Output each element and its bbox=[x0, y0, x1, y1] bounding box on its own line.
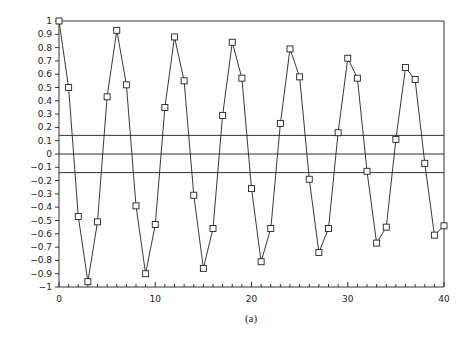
data-point-marker bbox=[422, 160, 428, 166]
data-point-marker bbox=[335, 130, 341, 136]
data-point-marker bbox=[200, 265, 206, 271]
data-point-marker bbox=[66, 85, 72, 91]
data-point-marker bbox=[326, 225, 332, 231]
data-point-marker bbox=[258, 259, 264, 265]
data-point-marker bbox=[162, 104, 168, 110]
y-tick-label: 0.3 bbox=[38, 109, 52, 119]
data-point-marker bbox=[383, 224, 389, 230]
data-point-marker bbox=[104, 94, 110, 100]
y-tick-label: 0.7 bbox=[38, 56, 52, 66]
chart: 10.90.80.70.60.50.40.30.20.10−0.1−0.2−0.… bbox=[0, 0, 470, 337]
data-point-marker bbox=[403, 65, 409, 71]
y-tick-label: 0.6 bbox=[38, 69, 53, 79]
data-point-marker bbox=[364, 168, 370, 174]
data-point-marker bbox=[374, 240, 380, 246]
y-tick-label: −0.1 bbox=[30, 162, 52, 172]
y-tick-label: 0.9 bbox=[38, 29, 53, 39]
data-point-marker bbox=[306, 176, 312, 182]
data-point-marker bbox=[181, 78, 187, 84]
data-point-marker bbox=[268, 225, 274, 231]
data-point-marker bbox=[393, 136, 399, 142]
data-point-marker bbox=[220, 112, 226, 118]
y-tick-label: −0.5 bbox=[30, 216, 52, 226]
x-tick-label: 40 bbox=[438, 294, 450, 304]
y-tick-label: 1 bbox=[46, 16, 52, 26]
y-tick-label: −0.4 bbox=[30, 202, 52, 212]
y-tick-label: 0.4 bbox=[38, 96, 53, 106]
data-point-marker bbox=[191, 192, 197, 198]
y-tick-label: −0.8 bbox=[30, 255, 52, 265]
y-tick-label: −0.2 bbox=[30, 176, 52, 186]
x-tick-label: 20 bbox=[246, 294, 258, 304]
y-tick-label: −0.7 bbox=[30, 242, 52, 252]
x-tick-label: 0 bbox=[56, 294, 62, 304]
figure-caption: (a) bbox=[245, 312, 258, 325]
axes: 10.90.80.70.60.50.40.30.20.10−0.1−0.2−0.… bbox=[30, 16, 450, 304]
data-point-marker bbox=[56, 18, 62, 24]
y-tick-label: −0.3 bbox=[30, 189, 52, 199]
data-point-marker bbox=[152, 221, 158, 227]
data-point-marker bbox=[210, 225, 216, 231]
y-tick-label: 0.8 bbox=[38, 43, 53, 53]
data-series bbox=[56, 18, 447, 285]
y-tick-label: −0.9 bbox=[30, 269, 52, 279]
data-point-marker bbox=[75, 214, 81, 220]
x-tick-label: 10 bbox=[150, 294, 162, 304]
y-tick-label: −0.6 bbox=[30, 229, 52, 239]
data-point-marker bbox=[277, 120, 283, 126]
data-point-marker bbox=[354, 75, 360, 81]
data-point-marker bbox=[172, 34, 178, 40]
y-tick-label: 0 bbox=[46, 149, 52, 159]
y-tick-label: 0.1 bbox=[38, 136, 52, 146]
y-tick-label: 0.2 bbox=[38, 122, 52, 132]
x-tick-label: 30 bbox=[342, 294, 354, 304]
data-point-marker bbox=[239, 75, 245, 81]
data-point-marker bbox=[143, 271, 149, 277]
data-point-marker bbox=[441, 223, 447, 229]
data-point-marker bbox=[229, 39, 235, 45]
data-point-marker bbox=[412, 77, 418, 83]
data-point-marker bbox=[287, 46, 293, 52]
data-point-marker bbox=[85, 279, 91, 285]
data-point-marker bbox=[95, 219, 101, 225]
data-point-marker bbox=[114, 27, 120, 33]
data-point-marker bbox=[297, 74, 303, 80]
data-point-marker bbox=[123, 82, 129, 88]
data-point-marker bbox=[316, 249, 322, 255]
data-point-marker bbox=[133, 203, 139, 209]
data-point-marker bbox=[345, 55, 351, 61]
data-point-marker bbox=[431, 232, 437, 238]
data-point-marker bbox=[249, 186, 255, 192]
y-tick-label: −1 bbox=[39, 282, 52, 292]
series-line bbox=[59, 21, 444, 282]
reference-lines bbox=[59, 135, 444, 172]
y-tick-label: 0.5 bbox=[38, 83, 52, 93]
